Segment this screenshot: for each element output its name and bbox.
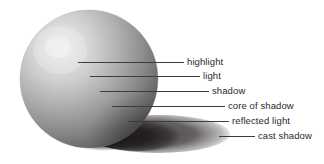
leader-line-shadow	[100, 91, 209, 92]
leader-line-core-of-shadow	[112, 106, 225, 107]
label-highlight: highlight	[187, 57, 223, 67]
label-light: light	[203, 71, 221, 81]
leader-line-reflected-light	[128, 121, 229, 122]
sphere-highlight-core	[45, 36, 71, 58]
label-cast-shadow: cast shadow	[258, 131, 312, 141]
label-shadow: shadow	[212, 86, 245, 96]
label-core-of-shadow: core of shadow	[228, 101, 294, 111]
leader-line-highlight	[78, 62, 184, 63]
label-reflected-light: reflected light	[232, 116, 290, 126]
sphere-lighting-diagram: highlight light shadow core of shadow re…	[0, 0, 324, 164]
leader-line-light	[90, 76, 200, 77]
leader-line-cast-shadow	[219, 136, 255, 137]
